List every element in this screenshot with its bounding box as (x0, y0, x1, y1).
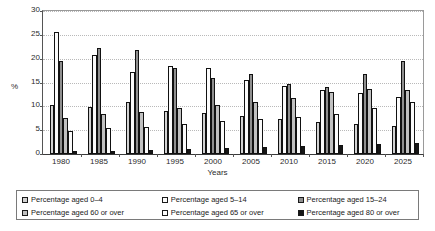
y-axis-tick-labels: 051015202530 (20, 10, 40, 155)
x-tick-label: 2020 (356, 157, 374, 166)
bar (244, 80, 249, 154)
axes-frame (42, 10, 424, 155)
bar (354, 124, 359, 154)
plot-area: % 051015202530 1980198519901995200020052… (0, 0, 435, 178)
bar (263, 147, 268, 154)
bar (206, 68, 211, 154)
bar (164, 111, 169, 154)
legend-item-60-over: Percentage aged 60 or over (22, 208, 162, 217)
bar (220, 121, 225, 154)
bar-group (392, 11, 420, 154)
bar (301, 146, 306, 154)
legend-row-bottom: Percentage aged 60 or over Percentage ag… (22, 206, 414, 219)
bar (59, 61, 64, 154)
bar (249, 74, 254, 154)
x-tick-label: 2010 (280, 157, 298, 166)
bar (325, 87, 330, 154)
bar (358, 93, 363, 154)
bar (320, 90, 325, 154)
bar (415, 143, 420, 154)
legend-label-80-over: Percentage aged 80 or over (307, 208, 400, 217)
legend-label-60-over: Percentage aged 60 or over (31, 208, 124, 217)
bar (291, 98, 296, 154)
bar (282, 86, 287, 154)
y-tick-label: 25 (31, 30, 40, 38)
bar (202, 113, 207, 154)
y-tick-label: 0 (36, 149, 40, 157)
y-tick-mark (40, 35, 43, 36)
x-tick-label: 2025 (394, 157, 412, 166)
x-tick-label: 2015 (318, 157, 336, 166)
y-tick-label: 20 (31, 54, 40, 62)
legend-item-5-14: Percentage aged 5–14 (162, 195, 298, 204)
y-tick-mark (40, 130, 43, 131)
bar (50, 105, 55, 154)
bar (88, 107, 93, 154)
x-tick-label: 1985 (90, 157, 108, 166)
bar (97, 48, 102, 154)
x-tick-label: 1980 (52, 157, 70, 166)
y-tick-mark (40, 106, 43, 107)
legend-swatch-icon-5-14 (162, 197, 168, 203)
bar (130, 72, 135, 154)
legend-label-15-24: Percentage aged 15–24 (307, 195, 387, 204)
y-axis-label: % (11, 82, 18, 91)
bar-group (354, 11, 382, 154)
bar (396, 97, 401, 154)
bar (278, 119, 283, 154)
bar (187, 149, 192, 154)
bar (316, 122, 321, 154)
bar (63, 118, 68, 154)
x-tick-label: 2000 (204, 157, 222, 166)
bar (339, 145, 344, 154)
bar (173, 68, 178, 154)
bar (367, 89, 372, 154)
bars-layer (43, 11, 423, 154)
y-tick-mark (40, 11, 43, 12)
bar (363, 74, 368, 154)
bar (410, 102, 415, 154)
x-axis-label: Years (0, 168, 435, 177)
bar (225, 148, 230, 154)
bar (211, 78, 216, 154)
y-tick-mark (40, 154, 43, 155)
bar (73, 151, 78, 154)
bar-group (164, 11, 192, 154)
bar (135, 50, 140, 154)
bar (377, 144, 382, 154)
x-tick-label: 1995 (166, 157, 184, 166)
x-tick-label: 2005 (242, 157, 260, 166)
bar (334, 114, 339, 154)
x-tick-label: 1990 (128, 157, 146, 166)
bar (144, 127, 149, 154)
bar (111, 151, 116, 154)
bar-group (240, 11, 268, 154)
bar (287, 84, 292, 154)
y-tick-label: 5 (36, 125, 40, 133)
bar (177, 108, 182, 154)
bar (149, 150, 154, 154)
legend-item-65-over: Percentage aged 65 or over (162, 208, 298, 217)
bar-group (278, 11, 306, 154)
bar-group (126, 11, 154, 154)
legend-swatch-icon-65-over (162, 210, 168, 216)
legend-swatch-icon-0-4 (22, 197, 28, 203)
bar-chart-figure: % 051015202530 1980198519901995200020052… (0, 0, 435, 231)
bar-group (88, 11, 116, 154)
legend-row-top: Percentage aged 0–4 Percentage aged 5–14… (22, 193, 414, 206)
legend-swatch-icon-60-over (22, 210, 28, 216)
y-tick-mark (40, 83, 43, 84)
bar-group (50, 11, 78, 154)
chart-legend: Percentage aged 0–4 Percentage aged 5–14… (16, 190, 419, 220)
bar (54, 32, 59, 154)
bar (258, 119, 263, 154)
bar (92, 55, 97, 154)
bar (101, 114, 106, 154)
bar (329, 92, 334, 154)
bar (139, 112, 144, 154)
legend-label-65-over: Percentage aged 65 or over (171, 208, 264, 217)
bar (182, 124, 187, 154)
bar (168, 66, 173, 154)
legend-swatch-icon-80-over (298, 210, 304, 216)
legend-item-15-24: Percentage aged 15–24 (298, 195, 414, 204)
